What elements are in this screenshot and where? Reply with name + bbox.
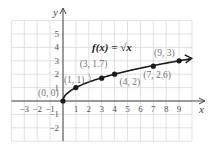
x-tick-label: 2: [87, 104, 92, 114]
point-label: (4, 2): [120, 77, 141, 88]
point-label: (7, 2.6): [143, 70, 171, 81]
point-label: (1, 1): [64, 75, 85, 86]
x-tick-label: 3: [99, 104, 104, 114]
point-label: (3, 1.7): [80, 59, 108, 70]
x-tick-label: 5: [125, 104, 130, 114]
y-tick-label: 4: [55, 42, 60, 52]
x-axis-label: x: [198, 103, 204, 115]
x-tick-label: 8: [164, 104, 169, 114]
x-tick-label: −2: [32, 104, 42, 114]
data-point: [73, 85, 78, 90]
x-tick-label: 6: [138, 104, 143, 114]
y-tick-label: 5: [55, 29, 60, 39]
data-point: [112, 72, 117, 77]
point-label: (9, 3): [154, 48, 175, 59]
y-tick-label: 2: [55, 69, 60, 79]
data-point: [151, 64, 156, 69]
x-tick-label: 1: [74, 104, 79, 114]
sqrt-function-graph: −3−2−1123456789−2−112345 (0, 0)(1, 1)(3,…: [0, 0, 211, 164]
function-label: f(x) = √x: [92, 41, 132, 54]
x-tick-label: 7: [151, 104, 156, 114]
x-tick-label: 9: [177, 104, 182, 114]
data-point: [99, 76, 104, 81]
data-point: [60, 98, 65, 103]
y-axis-label: y: [52, 6, 58, 18]
grid: [11, 21, 192, 142]
x-tick-label: 4: [112, 104, 117, 114]
y-tick-label: −1: [49, 109, 59, 119]
x-tick-label: −3: [20, 104, 30, 114]
y-tick-label: 3: [55, 56, 60, 66]
point-label: (0, 0): [38, 88, 59, 99]
y-tick-label: −2: [49, 123, 59, 133]
data-point: [177, 58, 182, 63]
